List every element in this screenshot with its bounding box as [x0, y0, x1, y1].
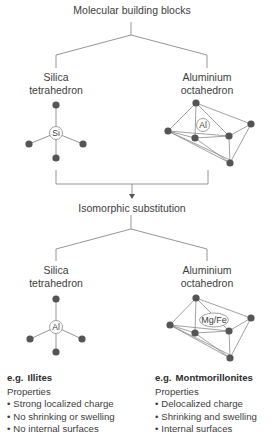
- row2-right-line2: octahedron: [167, 277, 247, 290]
- atom-label-al-substituted: Al: [46, 321, 66, 333]
- row1-left-label: Silica tetrahedron: [16, 71, 96, 97]
- row2-left-label: Silica tetrahedron: [16, 264, 96, 290]
- property-item: Delocalized charge: [155, 398, 275, 410]
- row2-left-line2: tetrahedron: [16, 277, 96, 290]
- row1-right-line2: octahedron: [167, 84, 247, 97]
- properties-list-illites: Strong localized charge No shrinking or …: [7, 398, 137, 435]
- example-heading-illites: e.g.Illites: [7, 372, 137, 384]
- top-title: Molecular building blocks: [0, 4, 264, 17]
- atom-label-si: Si: [46, 127, 66, 139]
- merge-bracket: [56, 170, 208, 195]
- atom-label-al: Al: [193, 119, 213, 131]
- row2-right-label: Aluminium octahedron: [167, 264, 247, 290]
- middle-title: Isomorphic substitution: [0, 202, 264, 215]
- eg-label: e.g.: [155, 372, 172, 383]
- property-item: No shrinking or swelling: [7, 411, 137, 423]
- row2-left-line1: Silica: [16, 264, 96, 277]
- illites-properties: e.g.Illites Properties Strong localized …: [7, 372, 137, 435]
- example-name-montmorillonites: Montmorillonites: [176, 372, 253, 383]
- row1-left-line2: tetrahedron: [16, 84, 96, 97]
- example-name-illites: Illites: [28, 372, 53, 383]
- aluminium-octahedron-al: [164, 99, 254, 166]
- property-item: Strong localized charge: [7, 398, 137, 410]
- aluminium-octahedron-mgfe: [166, 294, 254, 361]
- eg-label: e.g.: [7, 372, 24, 383]
- row2-right-line1: Aluminium: [167, 264, 247, 277]
- property-item: No internal surfaces: [7, 423, 137, 435]
- top-tree-connector: [56, 22, 207, 68]
- properties-heading: Properties: [155, 386, 275, 398]
- row1-right-label: Aluminium octahedron: [167, 71, 247, 97]
- montmorillonites-properties: e.g.Montmorillonites Properties Delocali…: [155, 372, 275, 435]
- arrow-down-icon: [129, 194, 135, 199]
- atom-label-mgfe: Mg/Fe: [196, 314, 232, 326]
- row1-left-line1: Silica: [16, 71, 96, 84]
- middle-tree-connector: [56, 215, 207, 261]
- properties-list-montmorillonites: Delocalized charge Shrinking and swellin…: [155, 398, 275, 435]
- properties-heading: Properties: [7, 386, 137, 398]
- row1-right-line1: Aluminium: [167, 71, 247, 84]
- property-item: Shrinking and swelling: [155, 411, 275, 423]
- example-heading-montmorillonites: e.g.Montmorillonites: [155, 372, 275, 384]
- property-item: Internal surfaces: [155, 423, 275, 435]
